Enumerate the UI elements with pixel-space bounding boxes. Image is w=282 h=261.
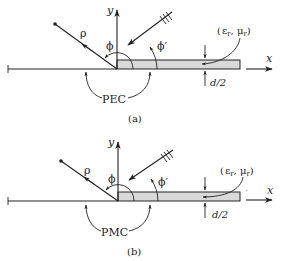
phi-label: ϕ [106, 40, 114, 53]
y-axis-label: y [107, 136, 115, 149]
phi-prime-label: ϕ′ [158, 176, 168, 189]
rho-label: ρ [80, 27, 86, 40]
y-axis-label: y [106, 4, 114, 17]
boundary-label: PMC [101, 226, 128, 239]
panel-a: x y ρ ϕ ϕ′ εr, μr) ( d/2 [8, 4, 273, 124]
phi-label: ϕ [108, 173, 116, 186]
material-label-open-paren: ( [220, 165, 224, 176]
observation-ray-arrow [82, 44, 92, 51]
figure-canvas: x y ρ ϕ ϕ′ εr, μr) ( d/2 [0, 0, 282, 261]
rho-label: ρ [84, 164, 90, 177]
x-axis-label: x [267, 184, 274, 197]
material-label-open-paren: ( [217, 25, 221, 36]
thickness-label: d/2 [212, 209, 228, 220]
material-label: εr, μr) [222, 25, 251, 38]
boundary-arrow-right [128, 72, 150, 98]
boundary-arrow-right [129, 205, 150, 231]
dielectric-slab [118, 192, 240, 201]
phi-prime-label: ϕ′ [157, 40, 167, 53]
x-axis-label: x [266, 52, 273, 65]
boundary-arrow-left [86, 205, 101, 231]
dielectric-slab [117, 60, 240, 69]
observation-point [53, 22, 57, 26]
thickness-label: d/2 [210, 77, 226, 88]
panel-caption: (b) [127, 246, 141, 257]
stray-mark: ' [246, 188, 248, 195]
panel-caption: (a) [128, 113, 142, 124]
panel-b: x ' y ρ ϕ ϕ′ εr, μr) ( d/2 PMC (b) [8, 136, 274, 257]
boundary-label: PEC [102, 93, 126, 106]
observation-point [59, 159, 63, 163]
boundary-arrow-left [86, 72, 102, 98]
observation-ray-arrow [84, 177, 94, 184]
material-label: εr, μr) [225, 165, 254, 178]
